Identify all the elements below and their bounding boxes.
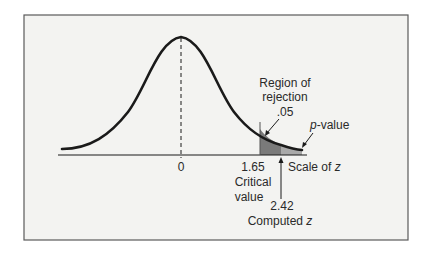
hypothesis-test-figure: Region of rejection .05 p-value 0 1.65 C… <box>0 0 430 254</box>
scale-of-z-label: Scale of z <box>288 160 341 174</box>
region-of-rejection-label-2: rejection <box>262 90 307 104</box>
figure-frame <box>24 15 408 240</box>
computed-z-value: 2.42 <box>270 199 294 213</box>
alpha-label: .05 <box>277 105 294 119</box>
critical-label-2: value <box>235 190 264 204</box>
pvalue-label: p-value <box>309 118 350 132</box>
computed-z-label: Computed z <box>248 214 313 228</box>
tick-critical: 1.65 <box>241 160 265 174</box>
critical-label-1: Critical <box>235 175 272 189</box>
region-of-rejection-label: Region of <box>259 76 311 90</box>
tick-zero: 0 <box>178 160 185 174</box>
